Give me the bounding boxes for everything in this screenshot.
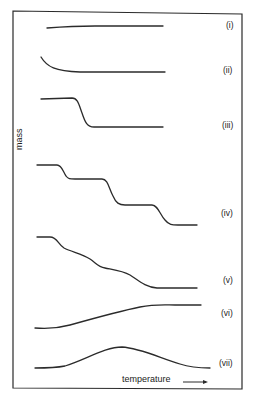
arrow-right-icon [203, 380, 208, 384]
plot-frame [13, 11, 242, 389]
curve-vii [35, 347, 210, 368]
tga-diagram [0, 0, 255, 400]
y-axis-label: mass [14, 128, 24, 150]
curve-iii [41, 98, 163, 127]
curve-label-ii: (ii) [223, 65, 232, 75]
curve-label-v: (v) [223, 275, 233, 285]
curve-vi [35, 305, 201, 329]
x-axis-label: temperature [122, 374, 171, 384]
curve-ii [41, 57, 165, 72]
curve-label-i: (i) [226, 20, 234, 30]
curve-label-vi: (vi) [221, 308, 233, 318]
curve-i [47, 26, 163, 28]
curve-label-iv: (iv) [221, 208, 233, 218]
curve-label-vii: (vii) [219, 358, 233, 368]
curve-v [37, 237, 197, 288]
curve-label-iii: (iii) [222, 120, 233, 130]
curve-iv [37, 165, 197, 225]
